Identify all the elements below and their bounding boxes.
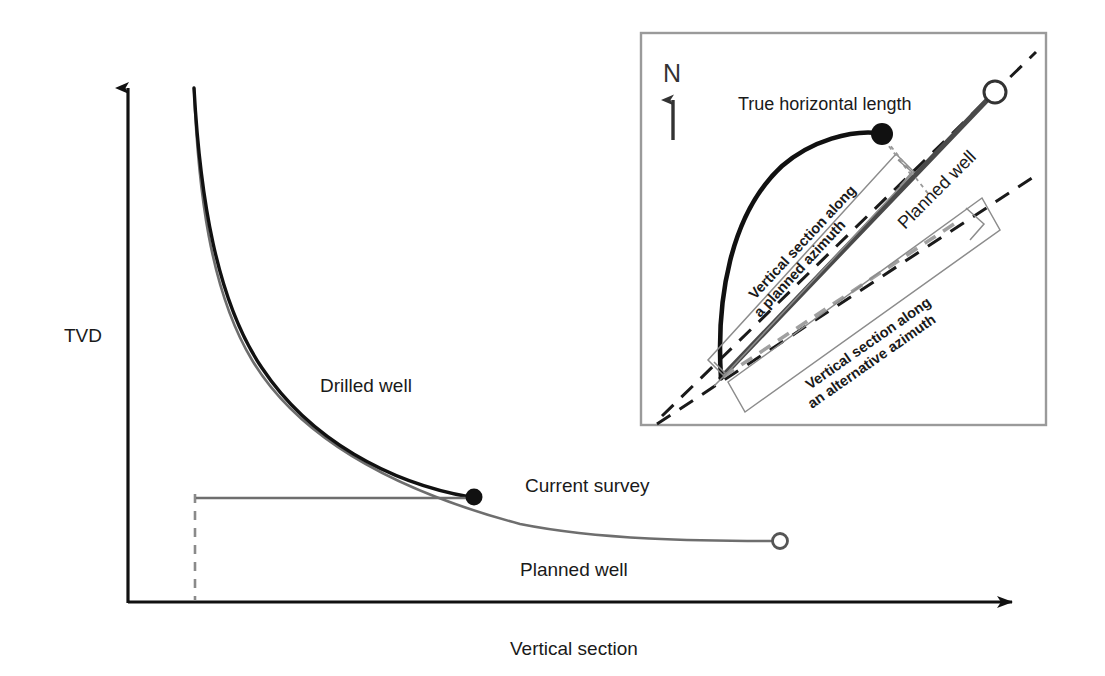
y-axis-label: TVD	[64, 325, 102, 346]
inset-true-horizontal-end-marker	[871, 123, 893, 145]
drilled-well-curve	[194, 88, 470, 497]
planned-well-target-marker	[773, 534, 788, 549]
current-survey-label: Current survey	[525, 475, 650, 496]
planned-well-label: Planned well	[520, 559, 628, 580]
inset-plan-view-panel: N	[641, 33, 1046, 425]
figure-canvas: Drilled well Current survey Planned well…	[0, 0, 1105, 676]
true-horizontal-length-label: True horizontal length	[738, 94, 911, 114]
x-axis-label: Vertical section	[510, 638, 638, 659]
drilled-well-label: Drilled well	[320, 375, 412, 396]
north-label: N	[663, 59, 681, 87]
inset-planned-target-marker	[984, 81, 1006, 103]
current-survey-point-marker	[466, 489, 483, 506]
well-trajectory-figure: Drilled well Current survey Planned well…	[0, 0, 1105, 676]
